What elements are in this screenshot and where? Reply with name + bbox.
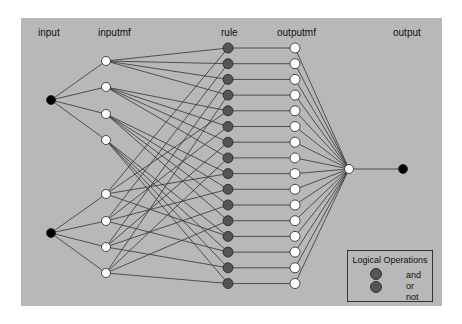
input-node-1 — [47, 96, 56, 105]
outputmf-node-10 — [290, 184, 300, 194]
column-label-output: output — [393, 27, 421, 38]
inputmf-node-7 — [102, 243, 111, 252]
outputmf-node-1 — [290, 43, 300, 53]
rule-node-14 — [223, 247, 233, 257]
rule-node-13 — [223, 231, 233, 241]
aggregate-node — [345, 165, 354, 174]
outputmf-node-12 — [290, 216, 300, 226]
inputmf-node-3 — [102, 110, 111, 119]
outputmf-node-6 — [290, 122, 300, 132]
outputmf-node-15 — [290, 263, 300, 273]
outputmf-node-11 — [290, 200, 300, 210]
column-label-rule: rule — [221, 27, 238, 38]
input-node-2 — [47, 229, 56, 238]
outputmf-node-2 — [290, 59, 300, 69]
outputmf-node-7 — [290, 137, 300, 147]
or-node-icon — [370, 281, 382, 293]
inputmf-node-8 — [102, 269, 111, 278]
inputmf-node-6 — [102, 217, 111, 226]
outputmf-node-16 — [290, 279, 300, 289]
rule-node-6 — [223, 122, 233, 132]
rule-node-9 — [223, 169, 233, 179]
column-label-input: input — [38, 27, 60, 38]
rule-node-12 — [223, 216, 233, 226]
rule-node-4 — [223, 90, 233, 100]
outputmf-node-9 — [290, 169, 300, 179]
inputmf-node-5 — [102, 190, 111, 199]
inputmf-node-1 — [102, 57, 111, 66]
rule-node-1 — [223, 43, 233, 53]
and-node-icon — [370, 268, 382, 280]
rule-node-11 — [223, 200, 233, 210]
legend-box: Logical Operations and or not — [347, 250, 433, 302]
legend-item-and: and — [406, 270, 421, 280]
legend-item-not: not — [406, 292, 419, 302]
column-label-outputmf: outputmf — [277, 27, 316, 38]
outputmf-node-5 — [290, 106, 300, 116]
rule-node-16 — [223, 279, 233, 289]
legend-title: Logical Operations — [348, 255, 432, 265]
legend-item-or: or — [406, 281, 414, 291]
rule-node-5 — [223, 106, 233, 116]
rule-node-15 — [223, 263, 233, 273]
outputmf-node-8 — [290, 153, 300, 163]
rule-node-10 — [223, 184, 233, 194]
output-node — [399, 165, 408, 174]
outputmf-node-13 — [290, 231, 300, 241]
outputmf-node-3 — [290, 74, 300, 84]
inputmf-node-2 — [102, 83, 111, 92]
column-label-inputmf: inputmf — [98, 27, 131, 38]
rule-node-7 — [223, 137, 233, 147]
inputmf-node-4 — [102, 136, 111, 145]
rule-node-2 — [223, 59, 233, 69]
outputmf-node-14 — [290, 247, 300, 257]
outputmf-node-4 — [290, 90, 300, 100]
rule-node-8 — [223, 153, 233, 163]
rule-node-3 — [223, 74, 233, 84]
